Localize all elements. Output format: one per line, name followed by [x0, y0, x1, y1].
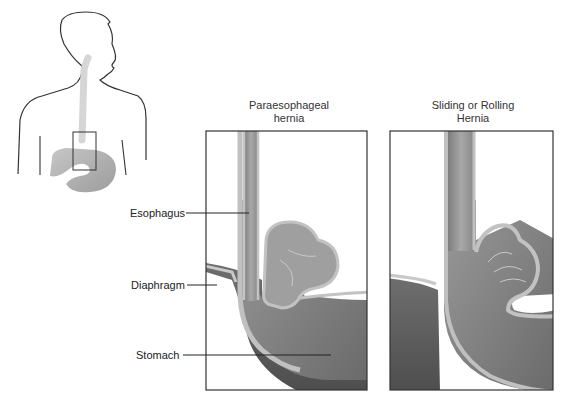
human-body-silhouette [18, 12, 146, 192]
panel-2-title-line2: Hernia [410, 112, 536, 125]
body-esophagus-icon [82, 58, 88, 140]
panel-1-title-line1: Paraesophageal [230, 99, 348, 112]
panel-sliding-rolling [386, 131, 556, 392]
hernia-diagram [0, 0, 576, 401]
panel-1-title-line2: hernia [230, 112, 348, 125]
panel-1-title: Paraesophageal hernia [230, 99, 348, 125]
panel-2-title-line1: Sliding or Rolling [410, 99, 536, 112]
panel-2-title: Sliding or Rolling Hernia [410, 99, 536, 125]
panel-paraesophageal [200, 131, 370, 392]
label-esophagus: Esophagus [130, 207, 185, 219]
label-diaphragm: Diaphragm [131, 279, 185, 291]
label-stomach: Stomach [136, 349, 179, 361]
